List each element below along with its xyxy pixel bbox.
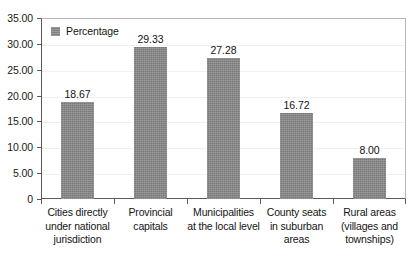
gridline — [42, 122, 405, 123]
y-axis-tick-label: 0 — [27, 193, 33, 205]
x-axis-tickmarks — [41, 199, 406, 205]
x-axis-category-line: Rural areas — [333, 206, 406, 220]
y-axis-tick-label: 25.00 — [7, 64, 33, 76]
x-axis-tick-mark — [260, 199, 261, 204]
bar-chart: 05.0010.0015.0020.0025.0030.0035.00 18.6… — [0, 0, 419, 265]
x-axis-tick-mark — [187, 199, 188, 204]
y-axis: 05.0010.0015.0020.0025.0030.0035.00 — [0, 0, 41, 265]
x-axis-category-label: Provincialcapitals — [114, 206, 187, 233]
x-axis-category-line: under national — [41, 220, 114, 234]
x-axis-category-label: Rural areas(villages andtownships) — [333, 206, 406, 247]
x-axis-category-label: County seatsin suburbanareas — [260, 206, 333, 247]
legend-swatch-icon — [51, 27, 60, 36]
x-axis-category-line: capitals — [114, 220, 187, 234]
x-axis-tick-mark — [333, 199, 334, 204]
gridlines — [42, 19, 405, 198]
x-axis-category-label: Cities directlyunder nationaljurisdictio… — [41, 206, 114, 247]
gridline — [42, 97, 405, 98]
x-axis-labels: Cities directlyunder nationaljurisdictio… — [41, 206, 406, 264]
x-axis-tick-mark — [405, 199, 406, 204]
x-axis-tick-mark — [114, 199, 115, 204]
x-axis-category-line: at the local level — [187, 220, 260, 234]
x-axis-category-label: Municipalitiesat the local level — [187, 206, 260, 233]
gridline — [42, 71, 405, 72]
x-axis-category-line: townships) — [333, 233, 406, 247]
x-axis-category-line: Cities directly — [41, 206, 114, 220]
legend-label: Percentage — [66, 25, 119, 37]
legend: Percentage — [51, 25, 119, 37]
y-axis-tick-label: 15.00 — [7, 115, 33, 127]
y-axis-tick-label: 20.00 — [7, 90, 33, 102]
y-axis-tick-label: 10.00 — [7, 141, 33, 153]
x-axis-category-line: areas — [260, 233, 333, 247]
x-axis-category-line: Municipalities — [187, 206, 260, 220]
x-axis-tick-mark — [41, 199, 42, 204]
x-axis-category-line: jurisdiction — [41, 233, 114, 247]
gridline — [42, 45, 405, 46]
gridline — [42, 148, 405, 149]
x-axis-category-line: (villages and — [333, 220, 406, 234]
y-axis-tick-label: 35.00 — [7, 12, 33, 24]
y-axis-tick-label: 5.00 — [13, 167, 33, 179]
gridline — [42, 174, 405, 175]
x-axis-category-line: Provincial — [114, 206, 187, 220]
plot-area — [41, 18, 406, 199]
x-axis-category-line: in suburban — [260, 220, 333, 234]
x-axis-category-line: County seats — [260, 206, 333, 220]
y-axis-tick-label: 30.00 — [7, 38, 33, 50]
